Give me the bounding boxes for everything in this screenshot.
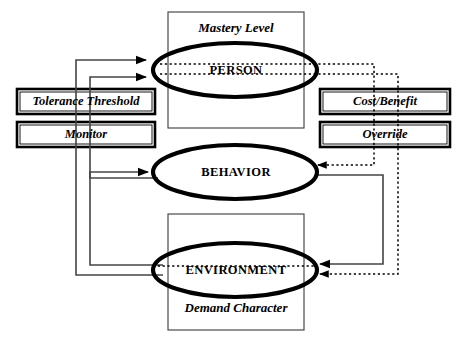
mastery-container-rect bbox=[168, 12, 304, 128]
behavior-ellipse bbox=[153, 145, 317, 199]
edge-behavior-to-environment bbox=[317, 175, 383, 264]
override-box-inner bbox=[323, 125, 447, 144]
edge-environment-to-behavior bbox=[90, 172, 163, 265]
cost-benefit-box-inner bbox=[323, 92, 447, 111]
demand-container-rect bbox=[168, 214, 304, 330]
diagram-canvas: Mastery Level PERSON BEHAVIOR ENVIRONMEN… bbox=[0, 0, 468, 342]
monitor-box-inner bbox=[20, 125, 152, 144]
tolerance-threshold-box-inner bbox=[20, 92, 152, 111]
diagram-graphics bbox=[0, 0, 468, 342]
